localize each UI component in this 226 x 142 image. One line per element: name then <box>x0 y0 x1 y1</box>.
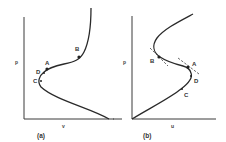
label-b-B: B <box>150 58 155 64</box>
caption-b: (b) <box>143 132 151 140</box>
caption-a: (a) <box>37 132 45 140</box>
point-a-D <box>43 72 45 74</box>
point-b-D <box>190 75 192 77</box>
label-b-A: A <box>192 61 197 67</box>
y-axis-label-a: p <box>15 59 18 65</box>
x-axis-label-a: v <box>62 123 65 129</box>
label-a-D: D <box>36 69 41 75</box>
label-a-B: B <box>75 46 80 52</box>
point-a-B <box>77 55 80 58</box>
y-axis-label-b: p <box>123 59 126 65</box>
curve-b <box>132 14 193 119</box>
label-b-C: C <box>184 92 189 98</box>
panel-b: A B C D p u (b) <box>113 14 216 140</box>
point-b-A <box>186 65 189 68</box>
label-a-A: A <box>45 60 50 66</box>
point-b-B <box>157 55 160 58</box>
point-b-C <box>181 88 183 90</box>
point-a-A <box>45 67 48 70</box>
curve-a <box>39 8 109 119</box>
x-axis-label-b: u <box>171 123 174 129</box>
label-b-D: D <box>194 78 199 84</box>
label-a-C: C <box>33 78 38 84</box>
figure: A B C D p v (a) A B C D p u (b) <box>0 0 226 142</box>
panel-a: A B C D p v (a) <box>15 8 114 140</box>
point-a-C <box>40 80 42 82</box>
